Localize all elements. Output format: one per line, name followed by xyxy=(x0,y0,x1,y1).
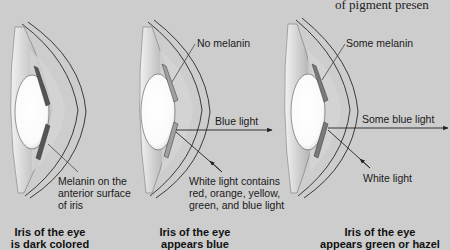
label-some-blue-light: Some blue light xyxy=(362,113,434,125)
label-blue-light: Blue light xyxy=(215,115,258,127)
annotation-melanin-anterior: Melanin on the anterior surface of iris xyxy=(58,175,131,211)
caption-line: Iris of the eye xyxy=(310,226,450,238)
caption-line: appears blue xyxy=(155,238,235,250)
caption-line: is dark colored xyxy=(10,238,90,250)
eye-dark xyxy=(11,22,86,198)
annotation-line: Melanin on the xyxy=(58,175,131,187)
label-line: red, orange, yellow, xyxy=(189,187,284,199)
annotation-line: anterior surface xyxy=(58,187,131,199)
label-white-light-contains: White light contains red, orange, yellow… xyxy=(189,175,284,211)
annotation-line: of iris xyxy=(58,199,131,211)
label-white-light: White light xyxy=(363,172,412,184)
caption-blue: Iris of the eye appears blue xyxy=(155,226,235,250)
label-line: White light contains xyxy=(189,175,284,187)
caption-line: Iris of the eye xyxy=(10,226,90,238)
caption-line: appears green or hazel xyxy=(310,238,450,250)
label-line: green, and blue light xyxy=(189,199,284,211)
annotation-no-melanin: No melanin xyxy=(197,37,250,49)
annotation-some-melanin: Some melanin xyxy=(346,37,413,49)
caption-dark: Iris of the eye is dark colored xyxy=(10,226,90,250)
caption-green-hazel: Iris of the eye appears green or hazel xyxy=(310,226,450,250)
caption-line: Iris of the eye xyxy=(155,226,235,238)
